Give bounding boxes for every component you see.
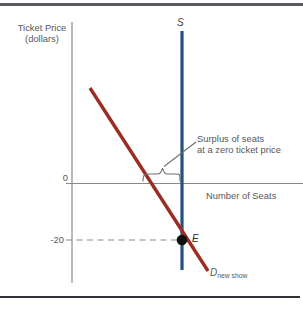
surplus-annotation-line1: Surplus of seats	[197, 133, 264, 144]
supply-curve-label: S	[177, 17, 184, 29]
economics-supply-demand-figure: Ticket Price(dollars) Number of Seats 0 …	[0, 0, 303, 310]
x-axis-title: Number of Seats	[206, 190, 276, 201]
y-axis-title: Ticket Price(dollars)	[12, 22, 72, 44]
equilibrium-label: E	[192, 233, 199, 245]
demand-curve	[90, 88, 208, 271]
y-axis-title-line2: (dollars)	[25, 33, 59, 44]
surplus-annotation-line2: at a zero ticket price	[197, 144, 281, 155]
leader-line-icon	[164, 142, 196, 167]
surplus-annotation: Surplus of seatsat a zero ticket price	[197, 133, 281, 155]
y-tick-label-0: 0	[56, 172, 68, 183]
filled-dot-icon	[177, 235, 188, 246]
y-tick-label-minus-20: -20	[40, 234, 64, 245]
demand-curve-label-subscript: new show	[217, 272, 247, 279]
demand-curve-label: Dnew show	[210, 267, 247, 278]
y-axis-title-line1: Ticket Price	[18, 22, 67, 33]
